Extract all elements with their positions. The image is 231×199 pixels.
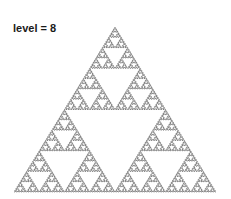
fractal-curve-path [14, 28, 216, 192]
sierpinski-arrowhead-curve [0, 0, 231, 199]
